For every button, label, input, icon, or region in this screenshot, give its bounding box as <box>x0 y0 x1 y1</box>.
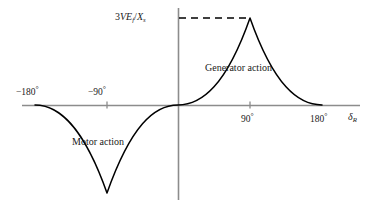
tick-neg90-value: −90 <box>88 87 103 97</box>
degree-icon: ° <box>36 85 39 94</box>
delta-subscript: R <box>353 116 357 123</box>
degree-icon: ° <box>103 85 106 94</box>
x-tick-label-neg180: −180° <box>16 86 39 97</box>
x-tick-label-pos180: 180° <box>310 113 327 124</box>
x-tick-label-pos90: 90° <box>241 113 254 124</box>
plot-area <box>0 0 374 214</box>
tick-pos180-value: 180 <box>310 114 324 124</box>
annotation-generator-action: Generator action <box>205 63 272 73</box>
tick-neg180-value: −180 <box>16 87 36 97</box>
power-angle-curve-figure: 3VEf/Xs −180° −90° 90° 180° δR Generator… <box>0 0 374 214</box>
x-tick-label-neg90: −90° <box>88 86 106 97</box>
degree-icon: ° <box>251 112 254 121</box>
y-axis-peak-value-label: 3VEf/Xs <box>115 12 146 24</box>
tick-pos90-value: 90 <box>241 114 251 124</box>
annotation-motor-action: Motor action <box>72 137 124 147</box>
degree-icon: ° <box>324 112 327 121</box>
ymax-x-subscript: s <box>143 16 146 23</box>
x-axis-name-label: δR <box>348 112 357 124</box>
